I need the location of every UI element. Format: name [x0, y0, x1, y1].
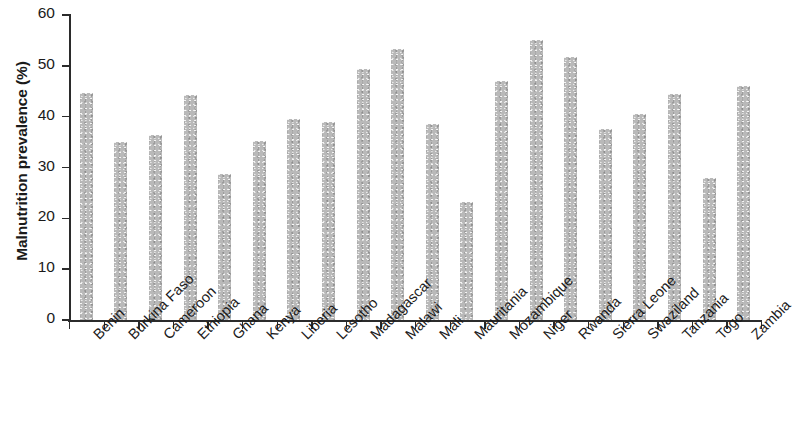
bar: [599, 129, 612, 320]
x-axis-tick-mark: [553, 321, 554, 329]
x-axis-tick-mark: [623, 321, 624, 329]
bar: [495, 81, 508, 320]
x-axis-tick-mark: [346, 321, 347, 329]
x-axis-tick-mark: [415, 321, 416, 329]
bar: [460, 202, 473, 320]
x-axis-tick-mark: [761, 321, 762, 329]
bar: [391, 49, 404, 320]
y-axis-tick-mark: [62, 14, 69, 16]
y-axis-tick-label: 20: [38, 207, 55, 225]
bar: [703, 178, 716, 320]
x-axis-tick-mark: [277, 321, 278, 329]
y-axis-tick-label: 10: [38, 258, 55, 276]
y-axis-tick-mark: [62, 218, 69, 220]
bar: [322, 122, 335, 320]
bar: [184, 95, 197, 320]
bar: [426, 124, 439, 320]
bar: [668, 94, 681, 320]
x-axis-tick-mark: [657, 321, 658, 329]
y-axis-tick-mark: [62, 319, 69, 321]
x-axis-tick-mark: [138, 321, 139, 329]
x-axis-tick-mark: [450, 321, 451, 329]
bar: [149, 135, 162, 320]
x-axis-tick-mark: [173, 321, 174, 329]
x-axis-tick-mark: [380, 321, 381, 329]
y-axis-tick-mark: [62, 116, 69, 118]
x-axis-tick-mark: [242, 321, 243, 329]
bar: [114, 142, 127, 320]
y-axis-tick-mark: [62, 167, 69, 169]
y-axis-tick-label: 30: [38, 157, 55, 175]
x-axis-tick-mark: [692, 321, 693, 329]
y-axis-title: Malnutrition prevalence (%): [13, 6, 31, 316]
bar: [287, 119, 300, 320]
bar: [530, 40, 543, 320]
bar: [737, 86, 750, 320]
bar: [633, 114, 646, 320]
x-axis-tick-mark: [207, 321, 208, 329]
y-axis-tick-mark: [62, 268, 69, 270]
bar: [218, 174, 231, 320]
y-axis-tick-label: 40: [38, 106, 55, 124]
bar: [80, 93, 93, 320]
x-axis-tick-mark: [726, 321, 727, 329]
x-axis-tick-mark: [104, 321, 105, 329]
plot-area: [69, 15, 761, 320]
y-axis-tick-label: 60: [38, 4, 55, 22]
bar: [253, 141, 266, 320]
y-axis-tick-label: 0: [46, 309, 55, 327]
bar: [357, 69, 370, 320]
bar: [564, 57, 577, 320]
x-axis-tick-mark: [519, 321, 520, 329]
x-axis-tick-mark: [484, 321, 485, 329]
x-axis-tick-mark: [311, 321, 312, 329]
y-axis-tick-mark: [62, 65, 69, 67]
x-axis-tick-mark: [69, 321, 70, 329]
y-axis-tick-label: 50: [38, 55, 55, 73]
x-axis-tick-mark: [588, 321, 589, 329]
